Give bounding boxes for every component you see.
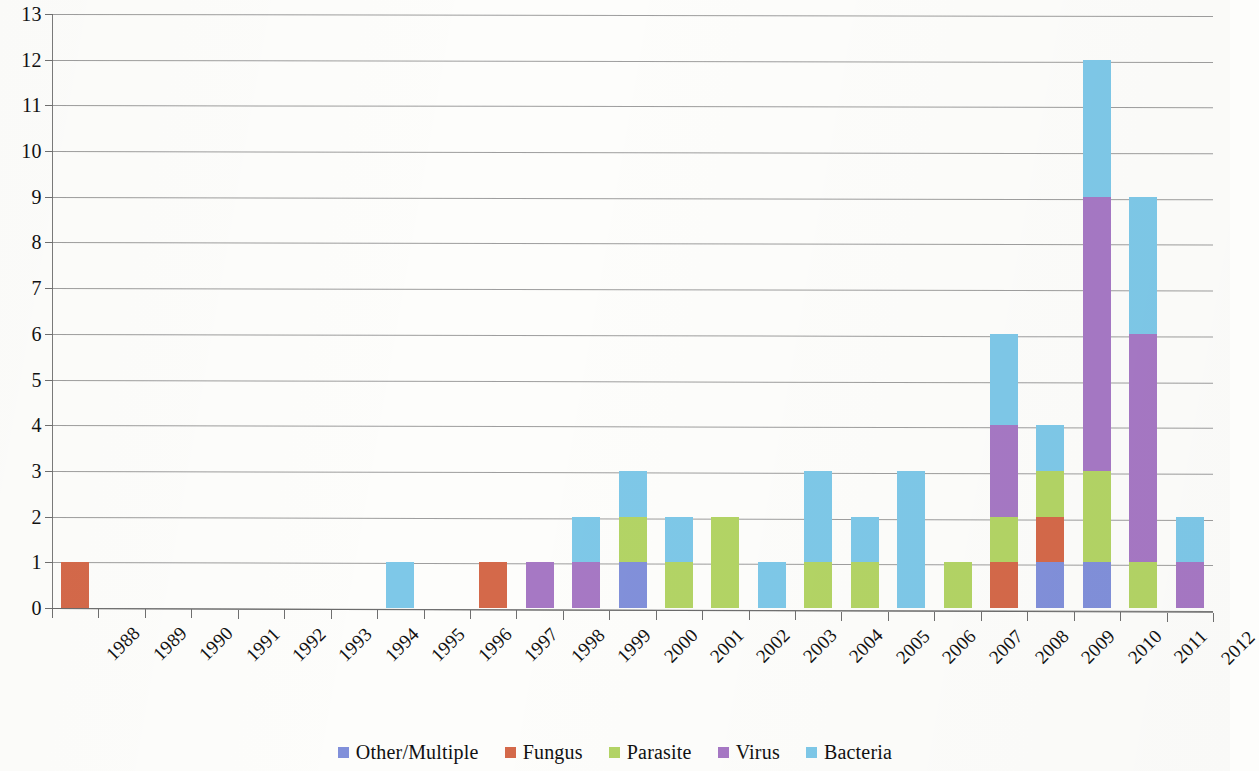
bar-segment-bacteria[interactable]: [897, 471, 925, 608]
legend-swatch-icon: [505, 747, 516, 758]
bar-segment-fungus[interactable]: [61, 562, 89, 608]
bar-segment-parasite[interactable]: [990, 517, 1018, 563]
bar-column[interactable]: [851, 517, 879, 608]
legend-label: Parasite: [627, 742, 692, 762]
legend-label: Other/Multiple: [356, 742, 479, 762]
x-tick-label: 2000: [660, 625, 701, 666]
bar-segment-bacteria[interactable]: [1083, 60, 1111, 197]
y-tick-label: 9: [32, 187, 42, 207]
bar-segment-parasite[interactable]: [944, 562, 972, 608]
x-tick-mark: [563, 611, 564, 620]
bar-segment-bacteria[interactable]: [572, 517, 600, 563]
bar-segment-bacteria[interactable]: [665, 517, 693, 563]
bar-segment-fungus[interactable]: [479, 562, 507, 608]
bar-segment-bacteria[interactable]: [804, 471, 832, 562]
bar-segment-parasite[interactable]: [711, 517, 739, 608]
x-tick-label: 1997: [521, 624, 562, 665]
bar-segment-parasite[interactable]: [804, 562, 832, 608]
x-tick-mark: [470, 610, 471, 619]
bar-column[interactable]: [1129, 197, 1157, 608]
bar-segment-parasite[interactable]: [619, 517, 647, 563]
bar-segment-parasite[interactable]: [851, 562, 879, 608]
legend-item-parasite[interactable]: Parasite: [609, 742, 692, 762]
x-tick-label: 1991: [242, 624, 283, 665]
bar-segment-virus[interactable]: [1129, 334, 1157, 562]
bar-column[interactable]: [804, 471, 832, 608]
bar-column[interactable]: [990, 334, 1018, 608]
bar-segment-bacteria[interactable]: [758, 562, 786, 608]
legend-item-virus[interactable]: Virus: [718, 742, 780, 762]
x-tick-mark: [1167, 613, 1168, 622]
bar-segment-virus[interactable]: [526, 562, 554, 608]
y-tick-label: 7: [32, 278, 42, 298]
x-tick-mark: [656, 611, 657, 620]
bar-segment-bacteria[interactable]: [1036, 425, 1064, 471]
x-tick-label: 1990: [195, 623, 236, 664]
x-tick-mark: [934, 612, 935, 621]
bar-column[interactable]: [758, 562, 786, 608]
x-tick-mark: [1120, 612, 1121, 621]
bar-column[interactable]: [61, 562, 89, 608]
bar-segment-other-multiple[interactable]: [1036, 562, 1064, 608]
bar-column[interactable]: [386, 562, 414, 608]
bar-segment-other-multiple[interactable]: [1083, 562, 1111, 608]
y-tick-label: 12: [21, 50, 42, 70]
x-tick-mark: [609, 611, 610, 620]
bar-segment-bacteria[interactable]: [386, 562, 414, 608]
bar-segment-virus[interactable]: [990, 425, 1018, 516]
bar-segment-fungus[interactable]: [1036, 517, 1064, 563]
bar-column[interactable]: [619, 471, 647, 608]
y-tick-label: 11: [22, 95, 42, 115]
x-tick-mark: [98, 609, 99, 618]
x-tick-label: 1998: [567, 625, 608, 666]
x-tick-mark: [981, 612, 982, 621]
x-tick-label: 1996: [474, 624, 515, 665]
bar-segment-bacteria[interactable]: [619, 471, 647, 517]
bar-column[interactable]: [1176, 517, 1204, 608]
bar-segment-bacteria[interactable]: [990, 334, 1018, 425]
bar-column[interactable]: [711, 517, 739, 608]
y-tick-label: 1: [32, 552, 42, 572]
x-tick-label: 1994: [381, 624, 422, 665]
x-tick-label: 2001: [706, 625, 747, 666]
x-tick-mark: [424, 610, 425, 619]
x-tick-label: 2012: [1217, 627, 1258, 668]
x-tick-mark: [795, 611, 796, 620]
bar-column[interactable]: [479, 562, 507, 608]
bar-segment-virus[interactable]: [1083, 197, 1111, 471]
legend-item-other-multiple[interactable]: Other/Multiple: [338, 742, 479, 762]
bar-column[interactable]: [665, 517, 693, 608]
legend-label: Fungus: [523, 742, 583, 762]
bar-segment-parasite[interactable]: [665, 562, 693, 608]
bar-column[interactable]: [944, 562, 972, 608]
bar-segment-fungus[interactable]: [990, 562, 1018, 608]
x-tick-label: 2002: [753, 625, 794, 666]
x-tick-label: 2011: [1170, 626, 1210, 666]
bar-segment-virus[interactable]: [1176, 562, 1204, 608]
y-tick-label: 10: [21, 141, 42, 161]
plot-area: [52, 14, 1213, 608]
x-tick-label: 2005: [892, 626, 933, 667]
x-tick-mark: [888, 612, 889, 621]
x-tick-label: 2007: [985, 626, 1026, 667]
bar-segment-bacteria[interactable]: [1129, 197, 1157, 334]
bar-segment-other-multiple[interactable]: [619, 562, 647, 608]
bar-segment-bacteria[interactable]: [1176, 517, 1204, 563]
bar-column[interactable]: [897, 471, 925, 608]
bar-column[interactable]: [1036, 425, 1064, 608]
bar-segment-virus[interactable]: [572, 562, 600, 608]
bar-column[interactable]: [572, 517, 600, 608]
legend-item-fungus[interactable]: Fungus: [505, 742, 583, 762]
bar-column[interactable]: [1083, 60, 1111, 608]
x-tick-label: 1992: [288, 624, 329, 665]
bar-segment-bacteria[interactable]: [851, 517, 879, 563]
x-tick-label: 2010: [1124, 626, 1165, 667]
bar-column[interactable]: [526, 562, 554, 608]
legend-item-bacteria[interactable]: Bacteria: [806, 742, 892, 762]
bar-segment-parasite[interactable]: [1036, 471, 1064, 517]
bar-segment-parasite[interactable]: [1129, 562, 1157, 608]
x-tick-mark: [331, 610, 332, 619]
legend-swatch-icon: [806, 747, 817, 758]
bar-segment-parasite[interactable]: [1083, 471, 1111, 562]
